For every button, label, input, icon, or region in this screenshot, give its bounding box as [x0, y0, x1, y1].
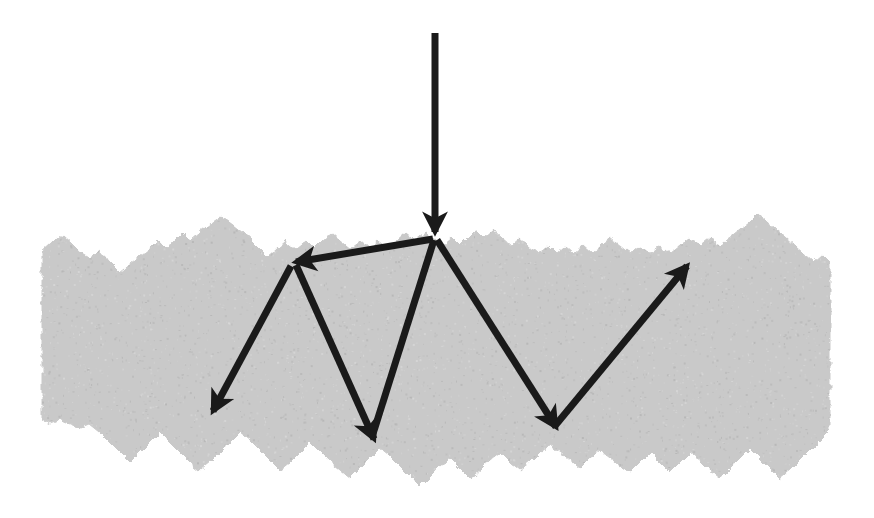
scattering-diagram [0, 0, 874, 518]
diagram-canvas [0, 0, 874, 518]
